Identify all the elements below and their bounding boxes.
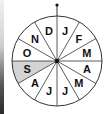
month-wheel-diagram: J F M A M J J A S O N D [0,0,108,114]
center-dot [55,59,59,63]
sector-label-aug: A [31,77,39,89]
sector-label-nov: N [31,33,39,45]
sector-label-jun: J [62,85,68,97]
sector-label-mar: M [82,47,91,59]
sector-label-feb: F [76,33,83,45]
start-marker-dot [55,3,58,6]
sector-label-oct: O [23,47,32,59]
sector-label-dec: D [45,25,53,37]
sector-label-apr: A [83,63,91,75]
sector-label-jan: J [62,25,68,37]
sector-label-may: M [74,77,83,89]
sector-label-jul: J [46,85,52,97]
sector-label-sep: S [23,63,30,75]
